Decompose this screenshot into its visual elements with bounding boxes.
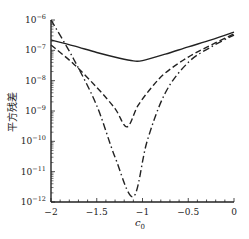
x-axis-label: c0 — [135, 217, 145, 231]
y-tick-label: 10−9 — [25, 104, 46, 116]
x-tick-label: −0.5 — [177, 207, 199, 217]
y-tick-label: 10−12 — [21, 195, 46, 207]
plot-curves — [51, 20, 234, 197]
x-tick-label: −1.5 — [86, 207, 108, 217]
y-tick-label: 10−6 — [25, 13, 46, 25]
y-tick-label: 10−10 — [21, 134, 46, 146]
y-tick-label: 10−8 — [25, 74, 46, 86]
chart: −2−1.5−1−0.5010−1210−1110−1010−910−810−7… — [0, 0, 249, 239]
x-tick-label: 0 — [231, 207, 237, 217]
y-tick-label: 10−11 — [21, 165, 46, 177]
x-tick-label: −2 — [44, 207, 57, 217]
x-tick-label: −1 — [136, 207, 149, 217]
y-tick-label: 10−7 — [25, 43, 46, 55]
y-axis-label: 平方残差 — [6, 92, 18, 132]
plot-axes: −2−1.5−1−0.5010−1210−1110−1010−910−810−7… — [21, 13, 237, 217]
